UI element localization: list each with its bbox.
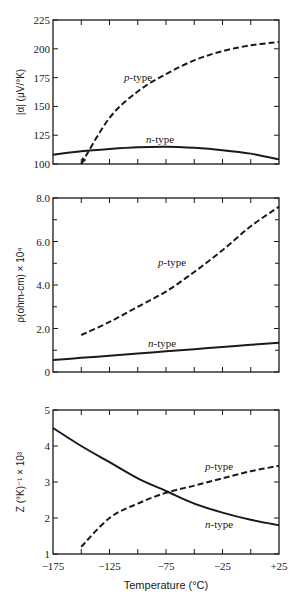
x-axis-label: Temperature (°C) <box>124 579 208 591</box>
p-type-label: p-type <box>157 256 186 268</box>
x-tick-label: −125 <box>98 560 121 572</box>
chart-panel-2: 02.04.06.08.0ρ(ohm-cm) × 10⁴ <box>15 192 279 378</box>
p-type-curve <box>81 466 279 547</box>
y-tick-label: 175 <box>34 72 51 84</box>
y-tick-label: 125 <box>34 129 51 141</box>
arrow-icon <box>81 157 86 164</box>
x-tick-label: +25 <box>270 560 288 572</box>
n-type-label: n-type <box>148 337 176 349</box>
x-tick-label: −25 <box>214 560 232 572</box>
n-type-label: n-type <box>146 133 174 145</box>
y-axis-label: |α| (μV/°K) <box>15 69 26 115</box>
y-axis-label: ρ(ohm-cm) × 10⁴ <box>15 247 26 322</box>
x-tick-label: −175 <box>42 560 65 572</box>
y-tick-label: 4 <box>45 440 51 452</box>
p-type-curve <box>81 207 279 335</box>
p-type-label: p-type <box>123 71 152 83</box>
p-type-curve <box>81 42 279 164</box>
y-tick-label: 2 <box>45 512 51 524</box>
y-tick-label: 225 <box>34 14 51 26</box>
figure: 100125150175200225|α| (μV/°K)02.04.06.08… <box>0 0 296 599</box>
x-tick-label: −75 <box>157 560 175 572</box>
y-tick-label: 100 <box>34 158 51 170</box>
chart-panel-3: 12345Z (°K)⁻¹ × 10³ <box>15 404 279 560</box>
y-tick-label: 200 <box>34 43 51 55</box>
n-type-label: n-type <box>205 518 233 530</box>
y-tick-label: 150 <box>34 100 51 112</box>
y-tick-label: 5 <box>45 404 51 416</box>
y-tick-label: 3 <box>45 476 51 488</box>
n-type-curve <box>53 428 279 525</box>
y-axis-label: Z (°K)⁻¹ × 10³ <box>15 451 26 512</box>
y-tick-label: 8.0 <box>36 192 50 204</box>
chart-panel-1: 100125150175200225|α| (μV/°K) <box>15 14 279 170</box>
y-tick-label: 6.0 <box>36 236 50 248</box>
y-tick-label: 4.0 <box>36 279 50 291</box>
p-type-label: p-type <box>204 460 233 472</box>
y-tick-label: 0 <box>45 366 51 378</box>
y-tick-label: 1 <box>45 548 51 560</box>
plot-frame <box>53 410 279 554</box>
y-tick-label: 2.0 <box>36 323 50 335</box>
